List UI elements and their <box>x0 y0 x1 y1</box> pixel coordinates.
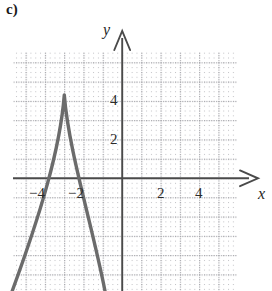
y-tick-label-4: 4 <box>110 93 118 108</box>
figure-panel: c) <box>0 0 272 291</box>
x-tick-label-4: 4 <box>195 186 203 201</box>
graph-canvas <box>0 0 272 291</box>
x-tick-label--4: −4 <box>29 186 45 201</box>
grid-layer <box>13 52 237 291</box>
y-axis-label: y <box>103 22 110 38</box>
x-tick-label--2: −2 <box>68 186 84 201</box>
x-axis-label: x <box>258 186 265 202</box>
x-tick-label-2: 2 <box>157 186 165 201</box>
y-tick-label-2: 2 <box>110 132 118 147</box>
